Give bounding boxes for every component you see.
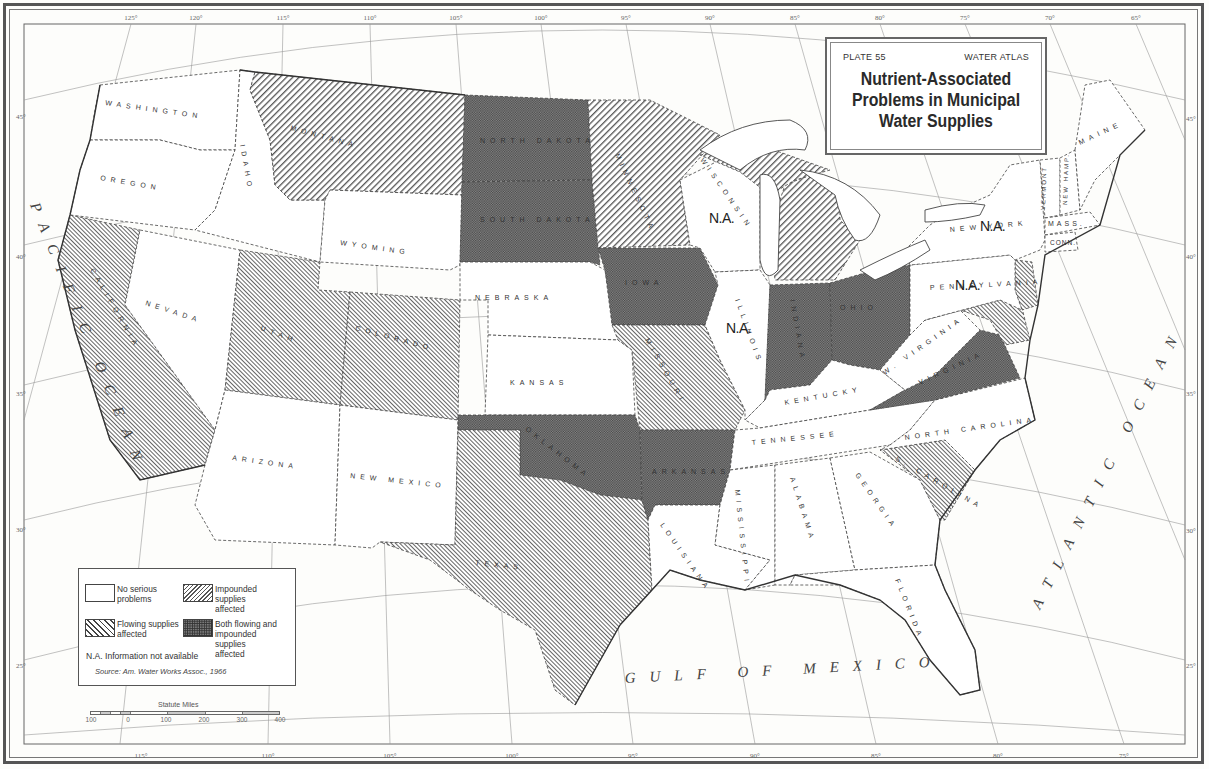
legend-item-both: Both flowing and impounded supplies affe… [183, 619, 295, 659]
label-kansas: KANSAS [510, 379, 568, 386]
scale-bar: Statute Miles 100 0 100 200 300 400 [88, 703, 288, 727]
na-pennsylvania: N.A. [955, 277, 980, 293]
state-colorado [340, 292, 460, 420]
label-north-dakota: NORTH DAKOTA [480, 137, 595, 144]
na-illinois: N.A. [726, 320, 751, 336]
na-wisconsin: N.A. [709, 210, 734, 226]
gulf-of-mexico-label: GULF OF MEXICO [624, 653, 944, 686]
lake-michigan [760, 174, 780, 275]
plate-number: PLATE 55 [843, 52, 886, 62]
legend-swatch-flowing [85, 619, 115, 637]
legend-swatch-both [183, 619, 213, 637]
state-iowa [598, 248, 718, 325]
title-line: Water Supplies [840, 111, 1032, 132]
legend-na-note: N.A. Information not available [86, 650, 198, 661]
scale-tick: 100 [161, 716, 172, 723]
title-line: Nutrient-Associated [840, 69, 1032, 90]
legend-item-none: No serious problems [85, 584, 162, 604]
legend-source: Source: Am. Water Works Assoc., 1966 [95, 667, 226, 676]
atlantic-ocean-label: ATLANTIC OCEAN [1028, 322, 1186, 612]
label-arkansas: ARKANSAS [652, 468, 730, 475]
legend: No serious problems Impounded supplies a… [78, 568, 296, 686]
scale-tick: 300 [237, 716, 248, 723]
legend-label: Both flowing and impounded supplies affe… [215, 619, 285, 659]
label-nebraska: NEBRASKA [475, 294, 553, 301]
legend-item-flowing: Flowing supplies affected [85, 619, 187, 639]
label-ohio: OHIO [840, 304, 878, 311]
scale-tick: 0 [126, 716, 130, 723]
legend-swatch-none [85, 584, 115, 602]
na-new-york: N.A. [980, 218, 1005, 234]
title-box: PLATE 55 WATER ATLAS Nutrient-Associated… [825, 37, 1047, 155]
scale-label: Statute Miles [158, 701, 198, 708]
legend-swatch-impounded [183, 584, 213, 602]
scale-bar-graphic [90, 711, 280, 715]
state-utah [225, 250, 350, 405]
state-nebraska [460, 262, 618, 340]
scale-tick: 400 [275, 716, 286, 723]
label-iowa: IOWA [625, 279, 663, 286]
legend-item-impounded: Impounded supplies affected [183, 584, 295, 614]
state-wyoming [320, 190, 462, 270]
legend-label: Flowing supplies affected [117, 619, 179, 639]
scale-tick: 100 [86, 716, 97, 723]
scale-tick: 200 [199, 716, 210, 723]
state-kansas [485, 335, 635, 415]
label-south-dakota: SOUTH DAKOTA [480, 216, 595, 223]
title-line: Problems in Municipal [840, 90, 1032, 111]
label-connecticut: CONN. [1050, 239, 1076, 246]
label-massachusetts: MASS. [1048, 220, 1085, 227]
map-title: Nutrient-Associated Problems in Municipa… [840, 69, 1032, 132]
legend-label: No serious problems [117, 584, 157, 604]
atlas-name: WATER ATLAS [964, 52, 1029, 62]
legend-label: Impounded supplies affected [215, 584, 285, 614]
